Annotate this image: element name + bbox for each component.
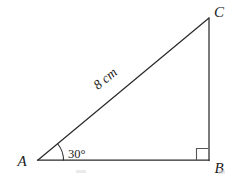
triangle-figure-svg: A B C 8 cm 30° [0,0,237,180]
angle-arc-at-a [58,144,64,160]
right-angle-square-at-b [197,149,209,161]
vertex-label-a: A [16,153,27,169]
side-length-label: 8 cm [90,64,120,92]
scan-artifact [76,170,86,173]
vertex-label-c: C [214,4,225,20]
hypotenuse-line-ac [38,18,209,160]
scan-artifact [218,170,225,174]
triangle-diagram: A B C 8 cm 30° [0,0,237,180]
angle-label-at-a: 30° [68,147,86,161]
